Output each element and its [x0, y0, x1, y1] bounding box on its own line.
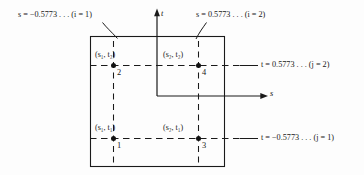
gauss-point-3: [196, 136, 201, 141]
gauss-point-1: [111, 136, 116, 141]
point-label-1: (s₁, t₁): [95, 124, 115, 132]
t-axis-label: t: [161, 9, 163, 18]
annotation-s-right: s = 0.5773 . . . (i = 2): [196, 11, 265, 19]
annotation-s-left: s = −0.5773 . . . (i = 1): [18, 11, 92, 19]
node-number-1: 1: [117, 141, 121, 150]
annotation-t-bottom: t = −0.5773 . . . (j = 1): [261, 134, 334, 142]
t-axis-arrowhead: [154, 9, 160, 17]
node-number-2: 2: [117, 68, 121, 77]
gauss-point-4: [196, 63, 201, 68]
gauss-point-diagram: s = −0.5773 . . . (i = 1) s = 0.5773 . .…: [0, 0, 364, 175]
s-axis-label: s: [270, 89, 273, 98]
node-number-4: 4: [202, 68, 206, 77]
annotation-t-top: t = 0.5773 . . . (j = 2): [261, 61, 329, 69]
node-number-3: 3: [202, 141, 206, 150]
diagram-canvas: [0, 0, 364, 175]
s-axis-arrowhead: [260, 93, 268, 99]
gauss-point-2: [111, 63, 116, 68]
point-label-2: (s₁, t₂): [95, 51, 115, 59]
point-label-3: (s₂, t₁): [163, 124, 183, 132]
point-label-4: (s₂, t₂): [163, 51, 183, 59]
